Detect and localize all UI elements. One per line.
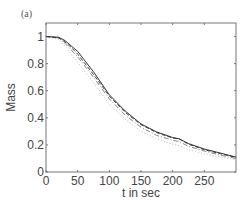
x-tick-label: 50 bbox=[71, 174, 85, 188]
y-tick-label: 0 bbox=[37, 165, 44, 179]
y-tick-label: 0.2 bbox=[27, 138, 44, 152]
x-tick-label: 100 bbox=[99, 174, 119, 188]
y-tick-label: 0.6 bbox=[27, 84, 44, 98]
y-tick-label: 1 bbox=[37, 30, 44, 44]
x-tick-label: 200 bbox=[163, 174, 183, 188]
line-chart: 05010015020025000.20.40.60.81t in secMas… bbox=[0, 0, 249, 203]
y-axis-label: Mass bbox=[4, 83, 18, 112]
x-tick-label: 250 bbox=[194, 174, 214, 188]
y-tick-label: 0.4 bbox=[27, 111, 44, 125]
y-tick-label: 0.8 bbox=[27, 57, 44, 71]
x-axis-label: t in sec bbox=[122, 186, 160, 200]
